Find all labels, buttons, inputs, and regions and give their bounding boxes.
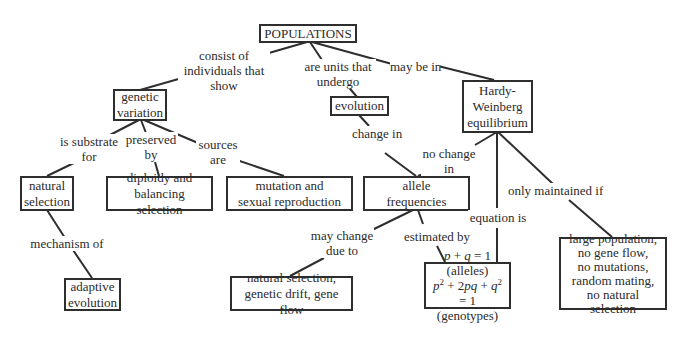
node-allele-frequencies: allele frequencies (363, 176, 470, 211)
node-hw-conditions: large population, no gene flow, no mutat… (559, 237, 667, 310)
link-label-preserved-by: preserved by (124, 132, 178, 162)
link-label-substrate-for: is substrate for (57, 134, 121, 164)
link-label-mechanism-of: mechanism of (30, 236, 104, 251)
node-hardy-weinberg: Hardy- Weinberg equilibrium (462, 80, 533, 133)
equation-genotypes: p2 + 2pq + q2 = 1 (430, 278, 505, 308)
link-label-only-maintained-if: only maintained if (508, 183, 602, 198)
link-label-estimated-by: estimated by (404, 229, 470, 244)
link-label-units-undergo: are units that undergo (300, 59, 376, 89)
link-label-equation-is: equation is (468, 210, 528, 225)
node-change-causes: natural selection, genetic drift, gene f… (230, 276, 353, 311)
link-label-change-in: change in (352, 126, 402, 141)
node-equations: p + q = 1 (alleles) p2 + 2pq + q2 = 1 (g… (424, 262, 511, 309)
link-label-sources-are: sources are (196, 137, 240, 167)
node-mutation: mutation and sexual reproduction (226, 176, 353, 211)
node-evolution: evolution (330, 96, 389, 116)
link-label-may-be-in: may be in (390, 59, 440, 74)
link-label-may-change-due-to: may change due to (310, 228, 374, 258)
node-genetic-variation: genetic variation (113, 89, 167, 121)
node-natural-selection: natural selection (20, 176, 74, 211)
link-label-no-change-in: no change in (421, 146, 477, 176)
equation-alleles: p + q = 1 (alleles) (430, 248, 505, 278)
link-label-consist-of: consist of individuals that show (178, 48, 270, 93)
node-adaptive-evolution: adaptive evolution (64, 278, 121, 311)
node-diploidy: diploidy and balancing selection (106, 176, 213, 211)
node-populations: POPULATIONS (259, 24, 357, 43)
